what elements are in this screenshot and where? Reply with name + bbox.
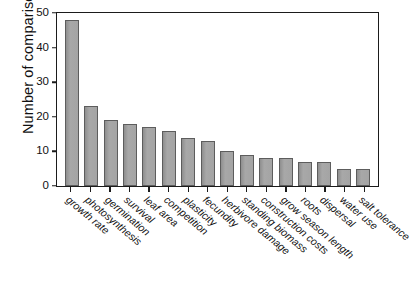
bar[interactable] — [298, 162, 312, 186]
bar[interactable] — [337, 169, 351, 186]
x-axis-label-slot: grow season length — [276, 192, 296, 291]
bar[interactable] — [123, 124, 137, 186]
x-axis-label-slot: photosynthesis — [81, 192, 101, 291]
y-axis-tick-label: 0 — [43, 180, 52, 192]
x-axis-label-slot: growth rate — [61, 192, 81, 291]
bar-slot — [140, 13, 159, 186]
x-axis-label-slot: plasticity — [178, 192, 198, 291]
bar[interactable] — [181, 138, 195, 186]
bar-slot — [354, 13, 373, 186]
bar-slot — [179, 13, 198, 186]
y-axis-tick: 40 — [36, 42, 57, 54]
bar[interactable] — [201, 141, 215, 186]
x-axis-label-slot: roots — [296, 192, 316, 291]
bar-slot — [295, 13, 314, 186]
bar-slot — [334, 13, 353, 186]
y-axis-title: Number of comparisons — [20, 0, 36, 146]
bar-series — [57, 13, 378, 186]
x-axis-label-slot: herbivore damage — [218, 192, 238, 291]
x-axis-label-slot: survival — [120, 192, 140, 291]
bar-slot — [237, 13, 256, 186]
x-axis-label-slot: standing biomass — [237, 192, 257, 291]
bar-slot — [81, 13, 100, 186]
bar[interactable] — [220, 151, 234, 186]
bar[interactable] — [317, 162, 331, 186]
bar[interactable] — [104, 120, 118, 186]
bar[interactable] — [65, 20, 79, 186]
x-axis-label-slot: fecundity — [198, 192, 218, 291]
bar-slot — [159, 13, 178, 186]
bar-slot — [101, 13, 120, 186]
bar[interactable] — [84, 106, 98, 186]
bar[interactable] — [356, 169, 370, 186]
x-axis-labels: growth ratephotosynthesisgerminationsurv… — [56, 192, 379, 291]
x-axis-label-slot: water use — [335, 192, 355, 291]
bar-slot — [218, 13, 237, 186]
x-axis-label-slot: salt tolerance — [354, 192, 374, 291]
bar-slot — [276, 13, 295, 186]
y-axis-tick-label: 20 — [36, 111, 52, 123]
bar-slot — [120, 13, 139, 186]
y-axis-tick: 20 — [36, 111, 57, 123]
bar-slot — [62, 13, 81, 186]
y-axis-tick: 30 — [36, 76, 57, 88]
bar[interactable] — [259, 158, 273, 186]
bar[interactable] — [162, 131, 176, 186]
y-axis-tick: 0 — [43, 180, 57, 192]
plot-area: 01020304050 — [56, 12, 379, 187]
y-axis-tick: 10 — [36, 146, 57, 158]
x-axis-label-slot: leaf area — [139, 192, 159, 291]
x-axis-label-slot: competition — [159, 192, 179, 291]
x-axis-label-slot: construction costs — [257, 192, 277, 291]
x-axis-label-slot: dispersal — [315, 192, 335, 291]
y-axis-tick-label: 40 — [36, 42, 52, 54]
bar[interactable] — [279, 158, 293, 186]
bar-slot — [315, 13, 334, 186]
bar[interactable] — [240, 155, 254, 186]
y-axis-tick: 50 — [36, 7, 57, 19]
y-axis-tick-label: 50 — [36, 7, 52, 19]
x-axis-label: salt tolerance — [357, 194, 412, 242]
bar[interactable] — [142, 127, 156, 186]
bar-slot — [198, 13, 217, 186]
y-axis-tick-label: 10 — [36, 146, 52, 158]
y-axis-tick-label: 30 — [36, 76, 52, 88]
bar-slot — [256, 13, 275, 186]
x-axis-label-slot: germination — [100, 192, 120, 291]
